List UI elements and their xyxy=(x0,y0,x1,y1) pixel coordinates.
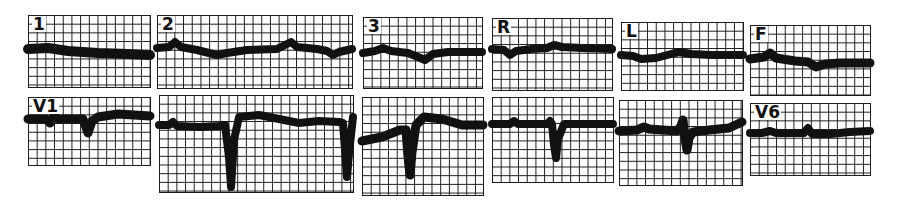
ecg-lead-strip-1: 1 xyxy=(28,15,151,88)
ecg-trace xyxy=(159,95,353,192)
ecg-trace xyxy=(157,15,352,88)
lead-label: 3 xyxy=(367,18,381,34)
lead-label: V6 xyxy=(754,104,781,120)
ecg-lead-strip-precordial-leads-3 xyxy=(492,97,614,183)
waveform-path xyxy=(28,48,150,55)
lead-label: R xyxy=(496,19,511,35)
ecg-trace xyxy=(621,22,743,90)
waveform-path xyxy=(492,45,612,55)
waveform-path xyxy=(619,120,742,150)
ecg-trace xyxy=(363,17,482,88)
ecg-lead-strip-v6: V6 xyxy=(750,103,871,176)
waveform-path xyxy=(621,52,743,59)
lead-label: 1 xyxy=(32,16,46,32)
lead-label: L xyxy=(625,23,638,39)
ecg-lead-strip-r: R xyxy=(492,18,613,91)
lead-label: V1 xyxy=(32,98,59,114)
lead-label: F xyxy=(754,26,768,42)
ecg-trace xyxy=(492,97,613,182)
waveform-path xyxy=(750,128,870,134)
ecg-trace xyxy=(362,97,483,195)
ecg-lead-strip-f: F xyxy=(750,25,871,96)
ecg-lead-strip-2: 2 xyxy=(157,15,353,89)
ecg-trace xyxy=(750,25,870,95)
waveform-path xyxy=(492,121,613,158)
lead-label: 2 xyxy=(161,16,175,32)
ecg-lead-strip-v1: V1 xyxy=(28,97,151,166)
waveform-path xyxy=(750,53,870,67)
ecg-trace xyxy=(28,15,150,87)
waveform-path xyxy=(28,114,150,133)
ecg-lead-strip-precordial-leads-1 xyxy=(159,95,354,193)
ecg-lead-strip-l: L xyxy=(621,22,744,91)
ecg-lead-strip-precordial-leads-4 xyxy=(619,100,743,186)
ecg-lead-strip-3: 3 xyxy=(363,17,483,89)
waveform-path xyxy=(363,48,482,60)
ecg-trace xyxy=(619,100,742,185)
ecg-lead-strip-precordial-leads-2 xyxy=(362,97,484,196)
waveform-path xyxy=(362,117,483,175)
waveform-path xyxy=(157,42,352,55)
waveform-path xyxy=(159,115,353,187)
